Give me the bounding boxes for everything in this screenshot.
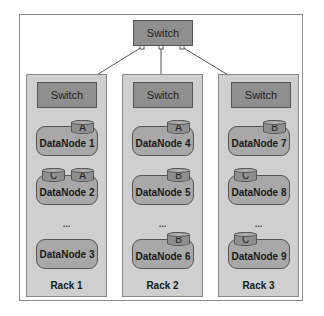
- rack-switch-label: Switch: [245, 89, 277, 101]
- block-cylinder-icon: C: [42, 168, 65, 182]
- datanode-3: DataNode 3: [36, 239, 98, 269]
- ellipsis: ...: [27, 219, 106, 229]
- block-cylinder-icon: A: [167, 120, 190, 134]
- datanode-label: DataNode 7: [231, 138, 286, 149]
- datanode-label: DataNode 1: [39, 138, 94, 149]
- block-label: A: [79, 123, 86, 133]
- block-label: B: [175, 235, 182, 245]
- block-label: B: [175, 171, 182, 181]
- core-switch-label: Switch: [147, 27, 179, 39]
- rack-2: Switch DataNode 4 A DataNode 5 B ... Dat…: [122, 74, 203, 297]
- rack-switch: Switch: [133, 82, 193, 108]
- rack-label: Rack 2: [123, 280, 202, 291]
- core-switch: Switch: [133, 20, 193, 46]
- rack-switch-label: Switch: [147, 89, 179, 101]
- datanode-label: DataNode 4: [135, 138, 190, 149]
- block-cylinder-icon: A: [71, 168, 94, 182]
- block-cylinder-icon: C: [234, 232, 257, 246]
- ellipsis: ...: [219, 219, 298, 229]
- block-cylinder-icon: B: [167, 232, 190, 246]
- block-label: A: [79, 171, 86, 181]
- ellipsis: ...: [123, 219, 202, 229]
- block-cylinder-icon: C: [234, 168, 257, 182]
- block-cylinder-icon: A: [71, 120, 94, 134]
- rack-switch-label: Switch: [51, 89, 83, 101]
- datanode-label: DataNode 5: [135, 187, 190, 198]
- datanode-label: DataNode 2: [39, 187, 94, 198]
- rack-3: Switch DataNode 7 B DataNode 8 C ... Dat…: [218, 74, 299, 297]
- datanode-label: DataNode 8: [231, 187, 286, 198]
- block-cylinder-icon: B: [167, 168, 190, 182]
- rack-switch: Switch: [37, 82, 97, 108]
- datanode-label: DataNode 6: [135, 251, 190, 262]
- block-label: C: [242, 171, 249, 181]
- block-label: C: [242, 235, 249, 245]
- block-label: A: [175, 123, 182, 133]
- datanode-label: DataNode 9: [231, 251, 286, 262]
- datanode-label: DataNode 3: [39, 249, 94, 260]
- rack-1: Switch DataNode 1 A DataNode 2 C A ... D…: [26, 74, 107, 297]
- rack-switch: Switch: [231, 82, 291, 108]
- rack-label: Rack 3: [219, 280, 298, 291]
- block-label: B: [271, 123, 278, 133]
- rack-label: Rack 1: [27, 280, 106, 291]
- block-cylinder-icon: B: [263, 120, 286, 134]
- block-label: C: [50, 171, 57, 181]
